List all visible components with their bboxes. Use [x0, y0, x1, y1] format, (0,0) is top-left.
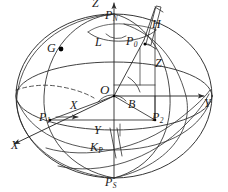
label-north-pole-sub: N: [113, 14, 118, 23]
label-zenith: Z: [155, 57, 162, 69]
kp-line-left: [110, 128, 116, 158]
geodetic-ellipsoid-diagram: [0, 0, 228, 192]
label-south-pole: PS: [105, 176, 116, 190]
label-point-p0-base: P: [126, 34, 133, 48]
label-point-p0-sub: 0: [134, 40, 138, 49]
label-x-axis-inner: X: [70, 99, 77, 111]
label-south-pole-base: P: [105, 175, 112, 189]
label-point-kp: KP: [90, 141, 103, 155]
label-y-axis-inner: Y: [94, 124, 101, 136]
label-point-p1-sub: 1: [47, 116, 51, 125]
label-point-p2-base: P: [152, 110, 159, 124]
label-height: H: [152, 18, 161, 30]
label-point-p1-base: P: [39, 110, 46, 124]
upper-parallel-arc-back: [88, 24, 156, 32]
figure-canvas: Z Y X X Y O PN PS G P0 P1 P2 KP L B H Z: [0, 0, 228, 192]
label-z-axis: Z: [92, 0, 99, 9]
label-point-p2-sub: 2: [160, 116, 164, 125]
segment-o-p1: [50, 96, 114, 120]
label-origin: O: [100, 83, 109, 96]
label-point-p1: P1: [39, 111, 50, 125]
longitude-angle-arc-L: [106, 34, 126, 39]
meridian-left-hidden-dashed: [16, 85, 94, 98]
label-north-pole: PN: [105, 9, 118, 23]
label-x-axis-outer: X: [11, 139, 18, 151]
label-point-kp-base: K: [90, 140, 98, 154]
kp-line-right: [117, 128, 122, 156]
point-marker-origin: [113, 95, 116, 98]
label-point-p0: P0: [126, 35, 137, 49]
label-north-pole-base: P: [105, 8, 112, 22]
label-y-axis: Y: [204, 97, 211, 109]
point-marker-g: [59, 47, 64, 52]
label-point-p2: P2: [152, 111, 163, 125]
label-point-kp-sub: P: [98, 146, 103, 155]
label-south-pole-sub: S: [113, 181, 117, 190]
label-angle-longitude: L: [95, 36, 102, 48]
latitude-angle-arc-B: [128, 77, 140, 92]
label-point-g: G: [47, 42, 56, 54]
meridian-right-limb: [114, 24, 187, 178]
label-angle-latitude: B: [128, 98, 135, 110]
point-marker-p0: [144, 43, 147, 46]
height-tick-top: [155, 7, 163, 12]
